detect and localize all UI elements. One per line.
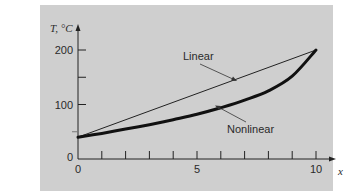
y-tick-label: 200 [55,44,73,56]
x-tick-label: 10 [310,163,322,175]
y-tick-label: 100 [55,99,73,111]
x-tick-label: 5 [194,163,200,175]
annotation-linear: Linear [183,50,214,62]
y-axis-label: T, °C [50,22,73,34]
x-tick-label: 0 [75,163,81,175]
plot-background [40,5,333,191]
x-axis-label: x [337,165,343,177]
annotation-nonlinear: Nonlinear [227,123,274,135]
y-tick-label: 0 [67,151,73,163]
chart: T, °C 1002000 0510 x Linear Nonlinear [0,0,361,194]
